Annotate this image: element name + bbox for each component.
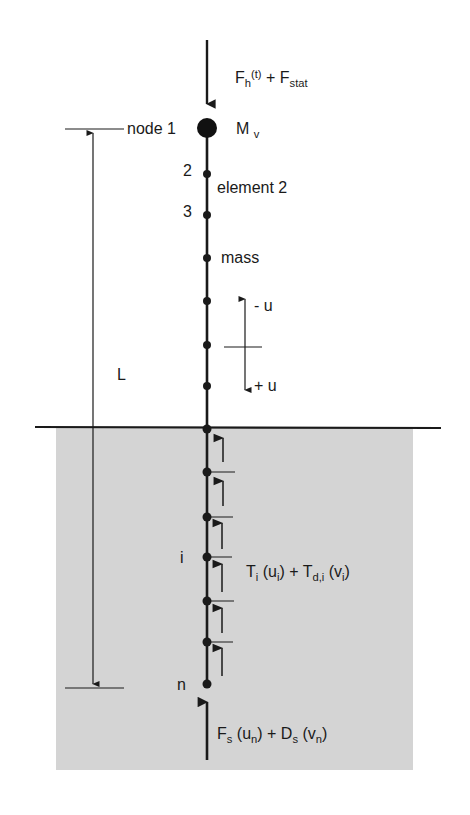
node-mass (203, 254, 211, 262)
soil-region (56, 428, 413, 770)
node-2-label: 2 (183, 163, 192, 179)
node-i-label: i (180, 550, 184, 566)
top-mass-label: M v (236, 121, 259, 140)
node-1-mass (197, 118, 217, 138)
toe-resistance-label: Fs (un) + Ds (vn) (217, 726, 327, 745)
node-ground (203, 425, 212, 434)
mass-label: mass (221, 250, 259, 266)
length-label: L (117, 367, 126, 383)
node-n (203, 680, 212, 689)
node-3-label: 3 (183, 204, 192, 220)
displacement-pos-label: + u (254, 378, 277, 394)
node (203, 382, 211, 390)
node (203, 297, 211, 305)
pile-model-diagram (0, 0, 470, 815)
top-load-label: Fh(t) + Fstat (235, 69, 308, 89)
node-n-label: n (177, 677, 186, 693)
element-2-label: element 2 (217, 180, 287, 196)
node-2 (203, 170, 211, 178)
node (203, 341, 211, 349)
displacement-neg-label: - u (254, 298, 273, 314)
node-3 (203, 211, 211, 219)
shaft-resistance-label: Ti (ui) + Td,i (vi) (246, 564, 350, 583)
ground-surface-line (35, 427, 441, 428)
node-1-label: node 1 (127, 121, 176, 137)
